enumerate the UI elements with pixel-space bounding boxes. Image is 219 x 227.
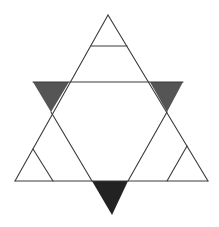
up-left-side-line — [15, 15, 108, 181]
bottom-right-inner-line — [167, 146, 187, 181]
bottom-left-inner-line — [33, 149, 53, 181]
down-left-side-lower-line — [51, 112, 92, 181]
right-shaded-triangle — [150, 82, 183, 112]
hexagram-diagram — [0, 0, 219, 227]
left-shaded-triangle — [33, 82, 69, 112]
bottom-shaded-triangle — [92, 181, 128, 215]
up-right-side-line — [108, 15, 208, 181]
down-right-side-lower-line — [128, 112, 167, 181]
